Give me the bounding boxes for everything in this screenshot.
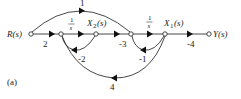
arrow-r-to-a-icon bbox=[49, 31, 55, 38]
node-output bbox=[207, 32, 211, 36]
arrow-x1-to-a-icon bbox=[111, 75, 117, 82]
arrow-x1-to-b-icon bbox=[140, 47, 146, 54]
label-x1: X 1 (s) bbox=[163, 18, 184, 30]
gain-r-to-b-feedforward: 1 bbox=[80, 0, 85, 8]
node-b bbox=[129, 32, 133, 36]
node-a bbox=[59, 32, 63, 36]
arrow-b-to-x1-icon bbox=[147, 31, 153, 38]
gain-x1-to-y: -4 bbox=[187, 39, 195, 49]
svg-text:(s): (s) bbox=[97, 18, 107, 28]
figure-caption: (a) bbox=[7, 77, 17, 87]
arrow-feedforward-icon bbox=[79, 8, 85, 15]
arrow-x1-to-y-icon bbox=[187, 31, 193, 38]
branch-r-to-b-feedforward bbox=[32, 11, 130, 32]
svg-text:X: X bbox=[163, 18, 170, 28]
arrow-x2-to-a-icon bbox=[71, 47, 77, 54]
gain-a-to-x2: 1 s bbox=[69, 16, 75, 32]
node-input bbox=[29, 32, 33, 36]
label-x2: X 2 (s) bbox=[86, 18, 107, 30]
branch-x1-to-b-feedback bbox=[132, 36, 164, 50]
svg-text:X: X bbox=[86, 18, 93, 28]
gain-x1-to-a-feedback: 4 bbox=[110, 82, 115, 92]
node-x1 bbox=[163, 32, 167, 36]
svg-text:(s): (s) bbox=[174, 18, 184, 28]
branch-x2-to-a-feedback bbox=[62, 36, 95, 50]
svg-text:1: 1 bbox=[70, 16, 74, 24]
svg-text:s: s bbox=[148, 22, 151, 30]
gain-b-to-x1: 1 s bbox=[147, 14, 153, 30]
gain-x2-to-a-feedback: -2 bbox=[78, 54, 86, 64]
gain-r-to-a: 2 bbox=[43, 39, 48, 49]
gain-x2-to-b: -3 bbox=[119, 39, 127, 49]
gain-x1-to-b-feedback: -1 bbox=[139, 54, 147, 64]
label-input: R(s) bbox=[6, 29, 22, 39]
node-x2 bbox=[94, 32, 98, 36]
arrow-a-to-x2-icon bbox=[78, 31, 84, 38]
arrow-x2-to-b-icon bbox=[114, 31, 120, 38]
svg-text:1: 1 bbox=[148, 14, 152, 22]
label-output: Y(s) bbox=[213, 29, 228, 39]
signal-flow-graph: R(s) Y(s) X 2 (s) X 1 (s) 2 1 s -3 1 s -… bbox=[0, 0, 241, 99]
svg-text:s: s bbox=[70, 24, 73, 32]
